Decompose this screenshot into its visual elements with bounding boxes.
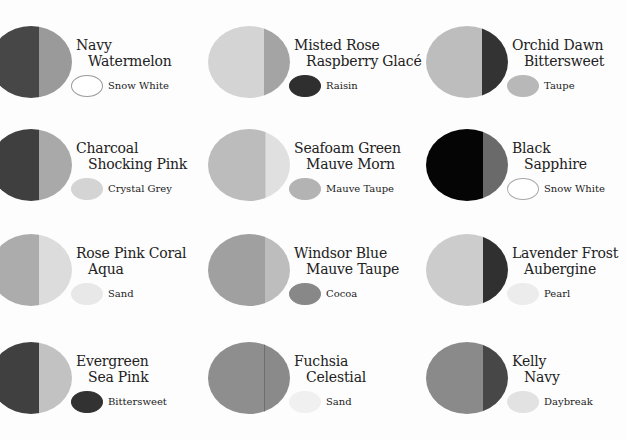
primary-color-name: Rose Pink Coral [76, 245, 186, 261]
secondary-color-name: Bittersweet [524, 53, 604, 69]
accent-color-name: Sand [108, 288, 134, 300]
primary-color-name: Fuchsia [294, 353, 348, 369]
accent-color-name: Cocoa [326, 288, 357, 300]
primary-color-half [0, 234, 39, 306]
primary-color-half [0, 129, 39, 201]
primary-color-name: Charcoal [76, 140, 138, 156]
accent-color-circle [71, 283, 103, 305]
primary-color-name: Windsor Blue [294, 245, 387, 261]
secondary-color-half [39, 26, 72, 98]
primary-color-name: Misted Rose [294, 37, 380, 53]
primary-secondary-color-circle [426, 342, 508, 414]
primary-secondary-color-circle [426, 234, 508, 306]
primary-secondary-color-circle [426, 26, 508, 98]
secondary-color-name: Aubergine [524, 261, 596, 277]
secondary-color-name: Aqua [88, 261, 124, 277]
secondary-color-name: Navy [524, 369, 560, 385]
primary-color-half [0, 342, 39, 414]
accent-color-name: Pearl [544, 288, 570, 300]
secondary-color-half [39, 129, 72, 201]
primary-secondary-color-circle [208, 129, 290, 201]
primary-color-half [208, 234, 265, 306]
secondary-color-half [483, 129, 508, 201]
accent-color-circle [507, 283, 539, 305]
accent-color-circle [289, 391, 321, 413]
accent-color-circle [289, 75, 321, 97]
secondary-color-half [265, 129, 290, 201]
primary-secondary-color-circle [0, 342, 72, 414]
primary-secondary-color-circle [208, 234, 290, 306]
accent-color-name: Crystal Grey [108, 183, 172, 195]
secondary-color-half [264, 342, 290, 414]
primary-color-half [426, 342, 483, 414]
secondary-color-name: Sapphire [524, 156, 587, 172]
primary-color-name: Lavender Frost [512, 245, 618, 261]
primary-color-name: Kelly [512, 353, 546, 369]
accent-color-name: Raisin [326, 80, 358, 92]
secondary-color-name: Mauve Morn [306, 156, 395, 172]
secondary-color-half [483, 234, 508, 306]
primary-color-half [426, 234, 483, 306]
accent-color-name: Snow White [108, 80, 169, 92]
secondary-color-half [265, 234, 290, 306]
primary-secondary-color-circle [0, 129, 72, 201]
accent-color-circle [289, 283, 321, 305]
primary-color-name: Orchid Dawn [512, 37, 603, 53]
secondary-color-name: Shocking Pink [88, 156, 187, 172]
primary-color-name: Black [512, 140, 550, 156]
secondary-color-half [264, 26, 290, 98]
secondary-color-name: Mauve Taupe [306, 261, 399, 277]
primary-color-half [0, 26, 39, 98]
primary-color-half [208, 129, 265, 201]
secondary-color-half [39, 234, 72, 306]
secondary-color-half [482, 26, 508, 98]
secondary-color-name: Watermelon [88, 53, 172, 69]
accent-color-circle [507, 75, 539, 97]
accent-color-circle [71, 391, 103, 413]
accent-color-name: Snow White [544, 183, 605, 195]
secondary-color-half [483, 342, 508, 414]
primary-secondary-color-circle [426, 129, 508, 201]
primary-secondary-color-circle [0, 234, 72, 306]
primary-secondary-color-circle [0, 26, 72, 98]
primary-color-half [426, 26, 482, 98]
primary-color-half [426, 129, 483, 201]
accent-color-name: Mauve Taupe [326, 183, 394, 195]
accent-color-circle [71, 178, 103, 200]
primary-color-half [208, 26, 264, 98]
accent-color-circle [507, 391, 539, 413]
primary-color-half [208, 342, 264, 414]
accent-color-name: Daybreak [544, 396, 593, 408]
accent-color-circle [507, 178, 539, 200]
accent-color-name: Taupe [544, 80, 575, 92]
primary-secondary-color-circle [208, 26, 290, 98]
secondary-color-half [39, 342, 72, 414]
secondary-color-name: Sea Pink [88, 369, 148, 385]
accent-color-name: Sand [326, 396, 352, 408]
accent-color-circle [71, 75, 103, 97]
primary-color-name: Navy [76, 37, 112, 53]
accent-color-name: Bittersweet [108, 396, 167, 408]
secondary-color-name: Celestial [306, 369, 366, 385]
accent-color-circle [289, 178, 321, 200]
primary-color-name: Evergreen [76, 353, 149, 369]
primary-secondary-color-circle [208, 342, 290, 414]
primary-color-name: Seafoam Green [294, 140, 401, 156]
secondary-color-name: Raspberry Glacé [306, 53, 421, 69]
